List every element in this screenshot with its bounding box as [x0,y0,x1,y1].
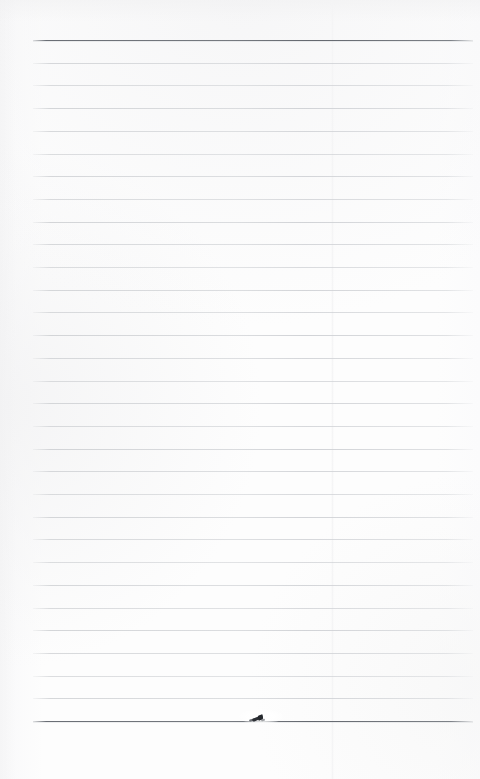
scan-seam [331,0,334,779]
ruled-line [33,471,473,472]
ruled-line-heavy [33,721,473,722]
ruled-line [33,676,473,677]
ruled-line [33,154,473,155]
ruled-line [33,176,473,177]
ruled-line [33,630,473,631]
ruled-line [33,267,473,268]
scan-vignette [0,0,480,779]
ink-smudge-mark [252,715,268,724]
ruled-line [33,222,473,223]
ruled-line [33,698,473,699]
ruled-line [33,449,473,450]
ruled-line [33,608,473,609]
ruled-line [33,426,473,427]
ruled-line [33,108,473,109]
ink-smudge-halo [238,709,284,724]
ruled-line [33,290,473,291]
ruled-line [33,539,473,540]
ruled-line [33,63,473,64]
ruled-line [33,494,473,495]
ruled-line [33,562,473,563]
ruled-line [33,585,473,586]
ruled-line [33,653,473,654]
ruled-line-heavy [33,40,473,41]
ruled-line [33,312,473,313]
ruled-line [33,199,473,200]
ruled-line [33,403,473,404]
scanned-page [0,0,480,779]
ink-stroke-tail [249,718,255,721]
ink-stroke-flick [261,719,265,721]
ruled-line [33,517,473,518]
ink-stroke-head [258,714,263,721]
ruled-line [33,244,473,245]
paper-texture [0,0,480,779]
ruled-line [33,335,473,336]
ruled-line [33,85,473,86]
ruled-line [33,358,473,359]
ruled-line [33,381,473,382]
ruled-line [33,131,473,132]
ink-stroke-main [252,715,263,722]
